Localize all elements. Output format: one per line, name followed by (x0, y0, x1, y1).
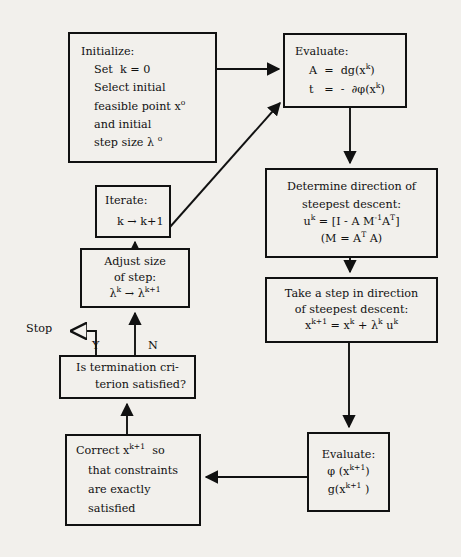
correct-line-1: Correct xk+1 so (76, 441, 199, 460)
node-evaluate-second[interactable]: Evaluate: φ (xk+1) g(xk+1 ) (307, 432, 390, 512)
label-stop: Stop (26, 322, 52, 335)
initialize-line-3: Select initial (81, 79, 215, 97)
node-termination-decision[interactable]: Is termination cri- terion satisfied? (59, 355, 196, 399)
iterate-line-1: Iterate: (105, 191, 169, 211)
flowchart-canvas: Initialize: Set k = 0 Select initial fea… (0, 0, 461, 557)
initialize-line-2: Set k = 0 (81, 61, 215, 79)
initialize-line-5: and initial (81, 116, 215, 134)
label-no-branch: N (148, 339, 158, 352)
determine-line-3: uk = [I - A M-1AT] (273, 213, 430, 230)
adjust-line-3: λk → λk+1 (86, 286, 184, 302)
takestep-line-3: xk+1 = xk + λk uk (273, 318, 430, 334)
determine-line-1: Determine direction of (273, 178, 430, 195)
node-evaluate-first[interactable]: Evaluate: A = dg(xk) t = - ∂φ(xk) (283, 33, 407, 108)
node-take-a-step[interactable]: Take a step in direction of steepest des… (265, 277, 438, 343)
node-determine-direction[interactable]: Determine direction of steepest descent:… (265, 168, 438, 258)
decision-line-1: Is termination cri- (66, 360, 189, 377)
initialize-line-4: feasible point xo (81, 98, 215, 116)
correct-line-2: that constraints (76, 461, 199, 480)
node-iterate[interactable]: Iterate: k → k+1 (95, 185, 171, 238)
label-yes-branch: Y (92, 339, 99, 352)
evaluate2-line-3: g(xk+1 ) (313, 481, 384, 498)
correct-line-4: satisfied (76, 499, 199, 518)
evaluate2-line-1: Evaluate: (313, 446, 384, 463)
node-correct-constraints[interactable]: Correct xk+1 so that constraints are exa… (65, 434, 201, 526)
takestep-line-1: Take a step in direction (273, 286, 430, 302)
determine-line-4: (M = AT A) (273, 230, 430, 247)
evaluate1-line-1: Evaluate: (295, 42, 405, 61)
takestep-line-2: of steepest descent: (273, 302, 430, 318)
decision-line-2: terion satisfied? (66, 377, 189, 394)
evaluate2-line-2: φ (xk+1) (313, 463, 384, 480)
evaluate1-line-2: A = dg(xk) (295, 61, 405, 80)
initialize-line-6: step size λ o (81, 134, 215, 152)
node-initialize[interactable]: Initialize: Set k = 0 Select initial fea… (68, 32, 217, 163)
correct-line-3: are exactly (76, 480, 199, 499)
determine-line-2: steepest descent: (273, 196, 430, 213)
node-adjust-step-size[interactable]: Adjust size of step: λk → λk+1 (80, 248, 190, 308)
adjust-line-1: Adjust size (86, 254, 184, 270)
initialize-line-1: Initialize: (81, 43, 215, 61)
iterate-line-2: k → k+1 (105, 212, 169, 232)
evaluate1-line-3: t = - ∂φ(xk) (295, 80, 405, 99)
adjust-line-2: of step: (86, 270, 184, 286)
